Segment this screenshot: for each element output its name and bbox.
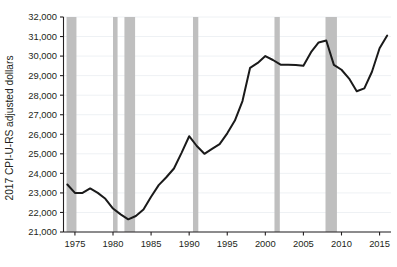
y-axis-tick-label: 26,000 — [28, 129, 57, 140]
grid-lines — [64, 17, 392, 232]
y-axis-tick-label: 30,000 — [28, 50, 57, 61]
y-axis-tick-label: 25,000 — [28, 148, 57, 159]
y-axis-tick-label: 24,000 — [28, 168, 57, 179]
x-axis-tick-labels: 197519801985199019952000200520102015 — [64, 238, 390, 249]
y-axis-tick-label: 23,000 — [28, 187, 57, 198]
x-axis-tick-label: 1975 — [64, 238, 85, 249]
chart-figure: 21,00022,00023,00024,00025,00026,00027,0… — [0, 0, 397, 267]
x-axis-tick-label: 2005 — [293, 238, 314, 249]
recession-band — [124, 17, 135, 232]
y-axis-tick-label: 31,000 — [28, 31, 57, 42]
y-axis-tick-label: 22,000 — [28, 207, 57, 218]
line-chart: 21,00022,00023,00024,00025,00026,00027,0… — [0, 0, 397, 267]
x-axis-tick-label: 1995 — [217, 238, 238, 249]
recession-band — [326, 17, 337, 232]
y-axis-tick-label: 21,000 — [28, 226, 57, 237]
y-axis-tick-label: 29,000 — [28, 70, 57, 81]
recession-band — [113, 17, 118, 232]
recession-band — [67, 17, 77, 232]
recession-band — [274, 17, 279, 232]
y-axis-tick-labels: 21,00022,00023,00024,00025,00026,00027,0… — [28, 11, 57, 237]
x-axis-tick-label: 1980 — [103, 238, 124, 249]
x-axis-tick-label: 2015 — [369, 238, 390, 249]
y-axis-tick-label: 27,000 — [28, 109, 57, 120]
y-axis-tick-label: 28,000 — [28, 90, 57, 101]
x-axis-tick-label: 2000 — [255, 238, 276, 249]
x-axis-tick-label: 1990 — [179, 238, 200, 249]
x-axis-tick-label: 2010 — [331, 238, 352, 249]
x-axis-tick-label: 1985 — [141, 238, 162, 249]
y-axis-tick-label: 32,000 — [28, 11, 57, 22]
recession-band — [193, 17, 198, 232]
y-axis-title: 2017 CPI-U-RS adjusted dollars — [4, 56, 15, 201]
